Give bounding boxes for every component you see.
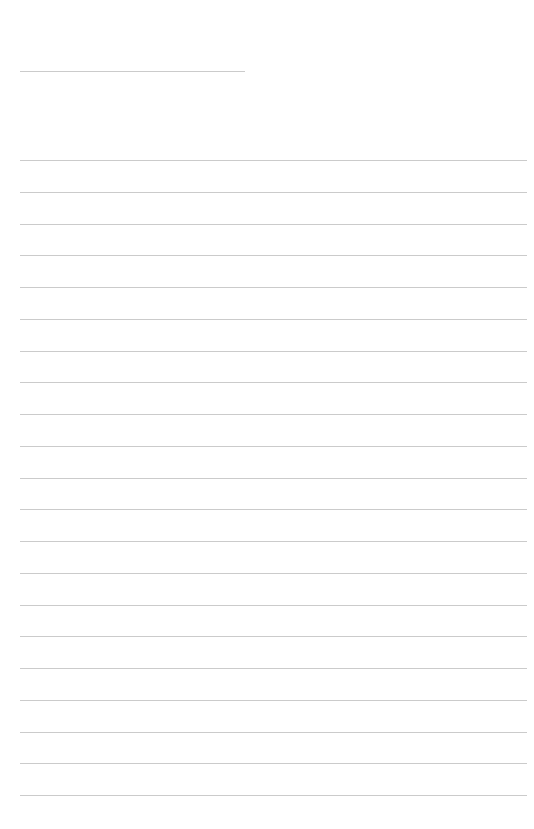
ruled-line [20,224,527,225]
ruled-line [20,287,527,288]
ruled-line [20,668,527,669]
ruled-line [20,255,527,256]
ruled-line [20,319,527,320]
ruled-line [20,732,527,733]
ruled-line [20,351,527,352]
ruled-line [20,795,527,796]
ruled-line [20,478,527,479]
ruled-line [20,382,527,383]
ruled-line [20,414,527,415]
ruled-line [20,509,527,510]
ruled-line [20,541,527,542]
ruled-line [20,636,527,637]
ruled-line [20,160,527,161]
header-write-line [20,71,245,72]
ruled-line [20,763,527,764]
ruled-line [20,605,527,606]
ruled-line [20,446,527,447]
ruled-line [20,700,527,701]
ruled-line [20,192,527,193]
ruled-line [20,573,527,574]
